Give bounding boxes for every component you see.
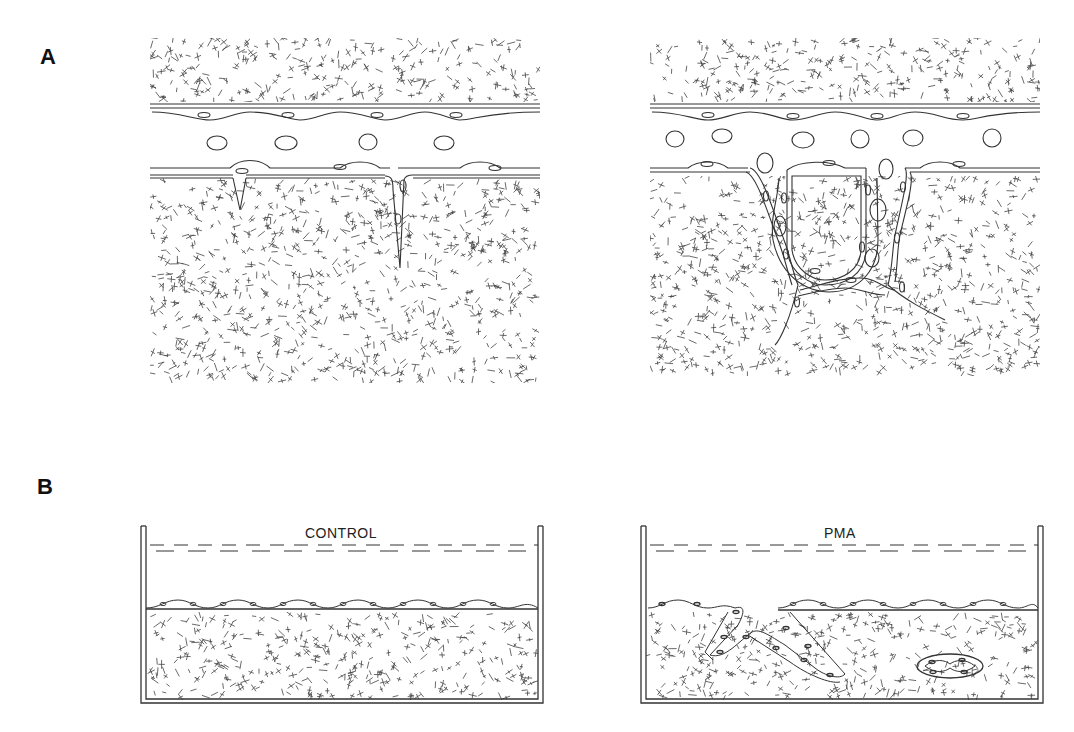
- matrix-fibers-a-right-top: [649, 35, 1042, 106]
- cell-nuclei-control: [160, 602, 496, 605]
- figure-illustration: [0, 0, 1074, 732]
- dish-pma: [641, 526, 1043, 703]
- matrix-fibers-a-left-bottom: [147, 177, 543, 385]
- collagen-gel-control: [148, 612, 540, 701]
- collagen-gel-pma: [646, 612, 1038, 701]
- matrix-fibers-a-left-top: [149, 35, 540, 104]
- panel-a-right-structures: [650, 104, 1040, 345]
- panel-a-left-structures: [150, 104, 540, 268]
